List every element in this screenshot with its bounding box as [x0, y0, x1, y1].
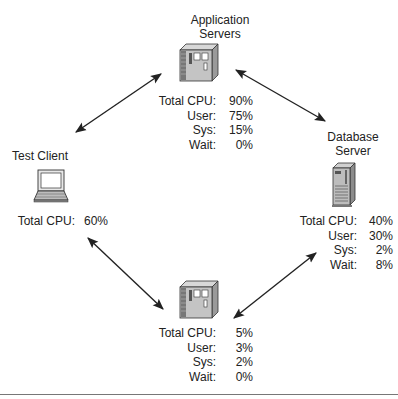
stat-label: User: — [152, 109, 216, 124]
database-server-stats: Total CPU:40% User:30% Sys:2% Wait:8% — [293, 214, 393, 272]
stat-label: User: — [293, 229, 357, 244]
stat-label: Wait: — [293, 258, 357, 273]
app-servers-title: Application Servers — [160, 13, 280, 41]
stat-row: Wait:0% — [152, 370, 253, 385]
laptop-icon — [34, 170, 68, 202]
server-cabinet-icon — [180, 44, 218, 81]
stat-label: Sys: — [152, 123, 216, 138]
stat-row: User:75% — [152, 109, 253, 124]
stat-value: 3% — [216, 341, 253, 356]
stat-label: Sys: — [293, 243, 357, 258]
arrow-client-app — [76, 74, 161, 132]
stat-value: 15% — [216, 123, 253, 138]
stat-row: Wait:8% — [293, 258, 393, 273]
stat-label: Total CPU: — [11, 214, 75, 229]
stat-row: User:30% — [293, 229, 393, 244]
stat-value: 0% — [216, 138, 253, 153]
app-servers-title-line1: Application — [160, 13, 280, 27]
stat-label: Total CPU: — [152, 326, 216, 341]
bottom-server-stats: Total CPU:5% User:3% Sys:2% Wait:0% — [152, 326, 253, 384]
stat-row: User:3% — [152, 341, 253, 356]
stat-value: 5% — [216, 326, 253, 341]
stat-label: Wait: — [152, 370, 216, 385]
stat-label: Total CPU: — [152, 94, 216, 109]
app-servers-title-line2: Servers — [160, 27, 280, 41]
stat-row: Total CPU:60% — [11, 214, 108, 229]
stat-value: 0% — [216, 370, 253, 385]
stat-label: Total CPU: — [293, 214, 357, 229]
test-client-stats: Total CPU:60% — [11, 214, 108, 229]
server-cabinet-icon — [180, 281, 218, 318]
stat-value: 2% — [357, 243, 393, 258]
stat-value: 60% — [75, 214, 108, 229]
arrow-client-bottom — [88, 238, 163, 309]
test-client-title: Test Client — [5, 149, 75, 163]
stat-value: 2% — [216, 355, 253, 370]
stat-row: Total CPU:40% — [293, 214, 393, 229]
database-server-title-line1: Database — [318, 130, 388, 144]
stat-row: Sys:2% — [152, 355, 253, 370]
tower-server-icon — [332, 163, 355, 207]
stat-value: 90% — [216, 94, 253, 109]
app-servers-stats: Total CPU:90% User:75% Sys:15% Wait:0% — [152, 94, 253, 152]
stat-value: 8% — [357, 258, 393, 273]
database-server-title-line2: Server — [318, 144, 388, 158]
stat-row: Sys:2% — [293, 243, 393, 258]
stat-label: Sys: — [152, 355, 216, 370]
stat-value: 30% — [357, 229, 393, 244]
stat-label: User: — [152, 341, 216, 356]
stat-row: Sys:15% — [152, 123, 253, 138]
stat-value: 40% — [357, 214, 393, 229]
database-server-title: Database Server — [318, 130, 388, 158]
bottom-divider — [0, 394, 398, 395]
stat-row: Total CPU:90% — [152, 94, 253, 109]
stat-value: 75% — [216, 109, 253, 124]
stat-label: Wait: — [152, 138, 216, 153]
stat-row: Total CPU:5% — [152, 326, 253, 341]
stat-row: Wait:0% — [152, 138, 253, 153]
